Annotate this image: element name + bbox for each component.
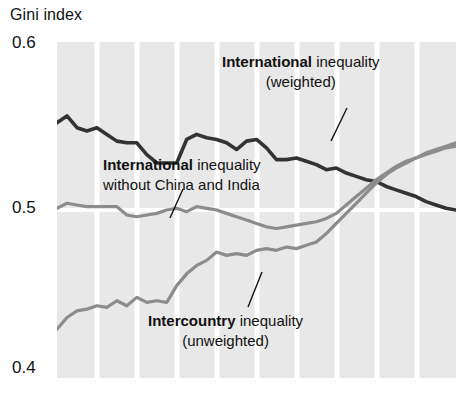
y-axis-tick-0.6: 0.6	[12, 33, 36, 53]
annotation-nochina-line2: without China and India	[103, 175, 261, 195]
annotation-international-without-china-india: International inequality without China a…	[103, 155, 261, 195]
annotation-nochina-bold: International	[103, 156, 193, 173]
annotation-weighted-line2: (weighted)	[222, 72, 380, 92]
gini-index-chart: Gini index 0.6 0.5 0.4 International ine…	[0, 0, 471, 395]
annotation-intercountry-unweighted: Intercountry inequality (unweighted)	[148, 311, 303, 351]
annotation-intercountry-line2: (unweighted)	[148, 331, 303, 351]
annotation-weighted-bold: International	[222, 53, 312, 70]
annotation-international-weighted: International inequality (weighted)	[222, 52, 380, 92]
annotation-intercountry-bold: Intercountry	[148, 312, 236, 329]
annotation-nochina-rest: inequality	[193, 156, 261, 173]
y-axis-title: Gini index	[10, 6, 82, 24]
annotation-intercountry-rest: inequality	[236, 312, 304, 329]
y-axis-tick-0.5: 0.5	[12, 198, 36, 218]
annotation-weighted-rest: inequality	[312, 53, 380, 70]
y-axis-tick-0.4: 0.4	[12, 358, 36, 378]
